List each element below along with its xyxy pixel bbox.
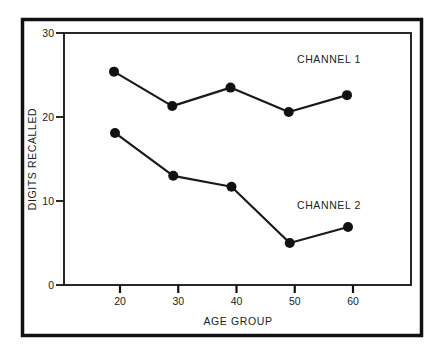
y-tick-label: 0 [48, 279, 54, 291]
series-1-point [109, 67, 119, 77]
x-tick-label: 30 [172, 295, 184, 307]
series-layer [109, 67, 353, 248]
x-tick-label: 60 [347, 295, 359, 307]
x-tick-label: 40 [231, 295, 243, 307]
y-axis-ticks: 0102030 [42, 27, 64, 291]
series-1-point [284, 107, 294, 117]
series-1-point [342, 90, 352, 100]
series-2-point [110, 128, 120, 138]
series-2-point [285, 238, 295, 248]
x-tick-label: 20 [114, 295, 126, 307]
series-2-point [227, 182, 237, 192]
series-label-channel-1: CHANNEL 1 [297, 53, 361, 65]
y-tick-label: 30 [42, 27, 54, 39]
x-axis-ticks: 2030405060 [114, 285, 359, 307]
series-1-point [167, 101, 177, 111]
series-2-point [343, 222, 353, 232]
series-1-point [226, 83, 236, 93]
series-label-channel-2: CHANNEL 2 [297, 199, 361, 211]
outer-frame [23, 20, 422, 336]
y-tick-label: 10 [42, 195, 54, 207]
x-axis-title: AGE GROUP [204, 315, 273, 327]
line-chart: 0102030 2030405060 AGE GROUP DIGITS RECA… [0, 0, 445, 352]
x-tick-label: 50 [289, 295, 301, 307]
y-axis-title: DIGITS RECALLED [26, 108, 38, 210]
y-tick-label: 20 [42, 111, 54, 123]
series-2-point [168, 171, 178, 181]
